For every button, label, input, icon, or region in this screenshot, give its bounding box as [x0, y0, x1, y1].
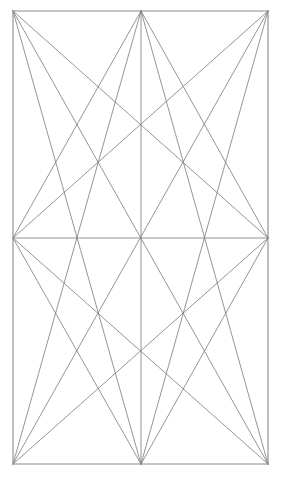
geometric-line-figure [0, 0, 285, 478]
diagram-canvas [0, 0, 285, 478]
interior-lines-layer [13, 11, 268, 464]
